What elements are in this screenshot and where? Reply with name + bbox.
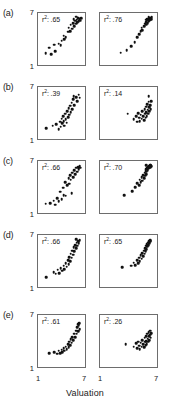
scatter-point: [131, 190, 134, 193]
scatter-point: [45, 127, 48, 130]
y-tick-top-b: 7: [24, 83, 34, 91]
scatter-point: [140, 257, 143, 260]
scatter-point: [69, 30, 72, 33]
y-tick-bottom-a: 1: [24, 63, 34, 71]
scatter-point: [63, 268, 66, 271]
scatter-point: [149, 337, 152, 340]
scatter-point: [139, 348, 142, 351]
scatter-point: [148, 110, 151, 113]
scatter-point: [79, 19, 82, 22]
scatter-point: [65, 121, 68, 124]
scatter-point: [74, 336, 77, 339]
x-tick-left-min: 1: [36, 374, 40, 383]
y-tick-bottom-d: 1: [24, 285, 34, 293]
scatter-point: [132, 345, 135, 348]
scatter-point: [136, 36, 139, 39]
scatter-point: [67, 263, 70, 266]
scatter-point: [73, 25, 76, 28]
y-tick-bottom-c: 1: [24, 211, 34, 219]
scatter-panel-a2: r2: .76: [99, 12, 158, 66]
scatter-point: [67, 107, 70, 110]
scatter-point: [149, 108, 152, 111]
y-tick-top-d: 7: [24, 231, 34, 239]
scatter-point: [72, 18, 75, 21]
scatter-points-b2: [100, 87, 157, 139]
scatter-point: [76, 245, 79, 248]
scatter-point: [76, 100, 79, 103]
scatter-point: [54, 272, 57, 275]
scatter-point: [146, 343, 149, 346]
scatter-point: [125, 49, 128, 52]
scatter-point: [50, 53, 53, 56]
scatter-point: [67, 346, 70, 349]
scatter-panel-d1: r2: .66: [37, 234, 86, 288]
scatter-point: [71, 27, 74, 30]
y-tick-top-e: 7: [24, 311, 34, 319]
scatter-point: [48, 352, 51, 355]
scatter-point: [143, 346, 146, 349]
scatter-point: [78, 328, 81, 331]
scatter-panel-a1: r2: .65: [37, 12, 86, 66]
scatter-point: [148, 339, 151, 342]
scatter-point: [133, 41, 136, 44]
scatter-matrix-figure: (a) 7 1 r2: .65 r2: .76 (b) 7 1 r2: .39 …: [0, 0, 170, 412]
x-tick-left-max: 7: [82, 374, 86, 383]
scatter-point: [141, 29, 144, 32]
scatter-panel-b1: r2: .39: [37, 86, 86, 140]
scatter-point: [72, 339, 75, 342]
scatter-panel-c1: r2: .66: [37, 160, 86, 214]
y-tick-bottom-e: 1: [24, 365, 34, 373]
panel-row-a: (a) 7 1 r2: .65 r2: .76: [0, 8, 170, 70]
scatter-point: [77, 242, 80, 245]
scatter-point: [75, 247, 78, 250]
scatter-point: [63, 124, 66, 127]
scatter-point: [143, 119, 146, 122]
scatter-points-d1: [38, 235, 85, 287]
scatter-point: [77, 330, 80, 333]
scatter-point: [64, 181, 67, 184]
scatter-point: [52, 199, 55, 202]
scatter-point: [63, 38, 66, 41]
scatter-point: [54, 203, 57, 206]
scatter-point: [68, 183, 71, 186]
scatter-points-b1: [38, 87, 85, 139]
scatter-panel-b2: r2: .14: [99, 86, 158, 140]
scatter-point: [76, 171, 79, 174]
panel-row-c: (c) 7 1 r2: .66 r2: .70: [0, 156, 170, 218]
scatter-point: [142, 255, 145, 258]
scatter-point: [67, 116, 70, 119]
scatter-point: [130, 45, 133, 48]
panel-row-d: (d) 7 1 r2: .66 r2: .65: [0, 230, 170, 292]
scatter-point: [44, 202, 47, 205]
scatter-point: [123, 194, 126, 197]
scatter-points-a2: [100, 13, 157, 65]
scatter-point: [69, 344, 72, 347]
scatter-point: [141, 179, 144, 182]
scatter-point: [145, 164, 148, 167]
scatter-panel-c2: r2: .70: [99, 160, 158, 214]
scatter-point: [144, 19, 147, 22]
scatter-points-c1: [38, 161, 85, 213]
scatter-point: [125, 343, 128, 346]
scatter-point: [150, 16, 153, 19]
scatter-point: [134, 186, 137, 189]
scatter-point: [65, 118, 68, 121]
scatter-point: [72, 176, 75, 179]
scatter-point: [59, 44, 62, 47]
scatter-point: [139, 120, 142, 123]
scatter-point: [150, 332, 153, 335]
scatter-point: [55, 123, 58, 126]
scatter-point: [67, 27, 70, 30]
scatter-point: [57, 128, 60, 131]
scatter-point: [146, 115, 149, 118]
scatter-point: [149, 104, 152, 107]
scatter-point: [70, 179, 73, 182]
scatter-point: [77, 93, 80, 96]
scatter-point: [48, 46, 51, 49]
scatter-point: [59, 125, 62, 128]
scatter-point: [73, 250, 76, 253]
x-tick-right-max: 7: [154, 374, 158, 383]
scatter-point: [62, 187, 65, 190]
scatter-point: [69, 105, 72, 108]
scatter-point: [64, 113, 67, 116]
